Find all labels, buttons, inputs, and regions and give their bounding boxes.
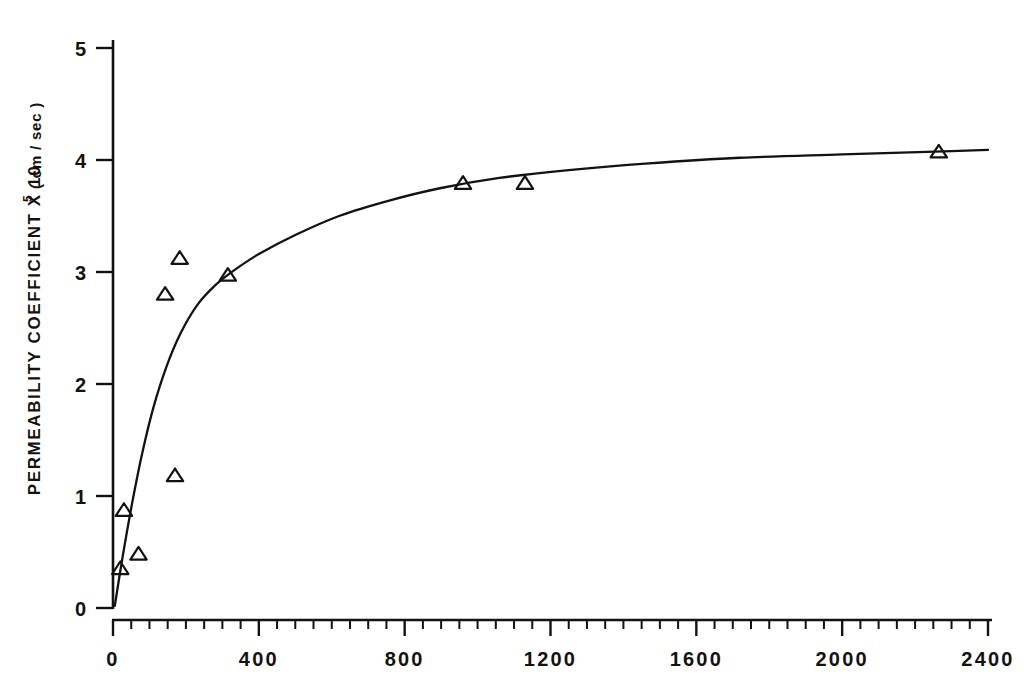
axes-group [112,40,992,620]
x-tick-label-1600: 1600 [670,648,723,670]
x-tick-label-1200: 1200 [524,648,577,670]
data-point-markers [112,145,947,574]
x-tick-label-2000: 2000 [816,648,869,670]
data-point-marker [130,547,146,560]
y-axis-title-group: PERMEABILITY COEFFICIENT X 10 5 ( cm / s… [21,102,44,495]
y-tick-label-4: 4 [75,150,87,172]
y-tick-label-1: 1 [75,486,86,508]
y-axis-tick-labels: 5 4 3 2 1 0 [75,38,87,620]
data-point-marker [172,251,188,264]
data-point-marker [116,503,132,516]
y-axis-title-main: PERMEABILITY COEFFICIENT X 10 [25,165,44,495]
x-tick-label-0: 0 [106,648,119,670]
x-tick-label-800: 800 [385,648,425,670]
x-axis-tick-labels: 04008001200160020002400 [106,648,1014,670]
y-tick-label-5: 5 [75,38,86,60]
y-axis-title-exponent: 5 [21,195,35,202]
x-tick-label-400: 400 [239,648,279,670]
y-axis-title-unit: ( cm / sec ) [27,102,44,189]
data-point-marker [157,287,173,300]
y-tick-label-0: 0 [75,598,86,620]
data-point-marker [167,469,183,482]
y-tick-label-3: 3 [75,262,86,284]
figure-root: 5 4 3 2 1 0 04008001200160020002400 PERM… [0,0,1031,692]
y-axis-ticks [96,48,113,608]
y-tick-label-2: 2 [75,374,86,396]
permeability-scatter-chart: 5 4 3 2 1 0 04008001200160020002400 PERM… [0,0,1031,692]
fitted-curve-line [115,150,988,606]
x-tick-label-2400: 2400 [961,648,1014,670]
x-axis-ticks [113,620,988,636]
data-point-marker [517,176,533,189]
